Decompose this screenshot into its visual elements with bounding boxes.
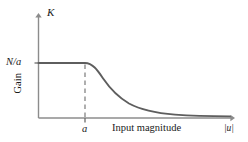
y-axis-name-gain: Gain — [13, 61, 24, 105]
x-axis-variable-label: |u| — [224, 124, 234, 134]
y-axis-title: K — [47, 7, 54, 18]
figure-container: K N/a Gain a Input magnitude |u| — [0, 0, 248, 142]
x-axis-title: Input magnitude — [112, 123, 181, 134]
plot-area — [0, 0, 248, 142]
gain-curve — [39, 63, 231, 116]
x-tick-label-a: a — [82, 124, 87, 135]
